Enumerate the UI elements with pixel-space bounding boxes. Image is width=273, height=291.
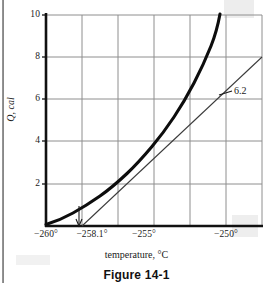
x-tick-label-250: −250° xyxy=(204,229,248,239)
y-tick-label-10: 10 xyxy=(18,9,40,19)
x-axis-title: temperature, °C xyxy=(0,249,273,260)
x-tick-label-258-1: −258.1° xyxy=(66,229,118,239)
series-heat-curve xyxy=(46,14,220,225)
figure-container: 10 8 6 4 2 −260° −258.1° −255° −250° 6.2… xyxy=(0,0,273,291)
figure-caption: Figure 14-1 xyxy=(0,268,273,282)
y-tick-label-6: 6 xyxy=(18,93,40,103)
y-tick-label-8: 8 xyxy=(18,51,40,61)
annotation-label-6-2: 6.2 xyxy=(234,85,247,96)
x-tick-label-260: −260° xyxy=(24,229,68,239)
y-tick-label-2: 2 xyxy=(18,178,40,188)
y-tick-label-4: 4 xyxy=(18,135,40,145)
x-tick-label-255: −255° xyxy=(122,229,166,239)
gridlines-vertical xyxy=(46,15,262,226)
chart-plot-area xyxy=(0,0,273,291)
y-axis-title: Q, cal xyxy=(5,80,16,140)
